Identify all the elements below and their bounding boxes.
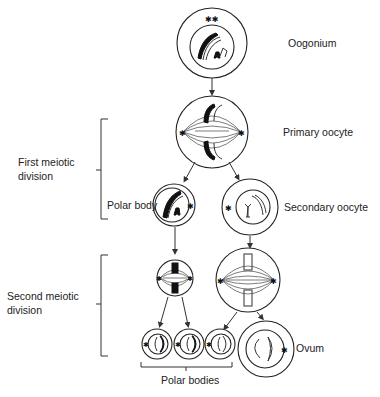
centriole-icon: ✱ [206,341,212,349]
label-second-division-line2: division [7,304,42,316]
centriole-icon: ✱ [238,129,245,138]
label-second-division-line1: Second meiotic [7,290,79,302]
centriole-icon: ✱✱ [205,15,219,24]
polar-body-division-cell: ✱ ✱ [156,260,193,296]
label-oogonium: Oogonium [288,37,337,49]
centriole-icon: ✱ [187,202,194,211]
label-secondary-oocyte: Secondary oocyte [284,201,368,213]
polar-bodies-bracket [141,362,232,371]
centriole-icon: ✱ [217,277,224,286]
oogonium-cell: ✱✱ [177,8,247,78]
polar-body-cell: ✱ [153,184,195,226]
label-ovum: Ovum [296,342,324,354]
label-primary-oocyte: Primary oocyte [283,126,353,138]
oogenesis-diagram: ✱✱ ✱ ✱ ✱ ✱ [0,0,380,397]
centriole-icon: ✱ [281,346,288,355]
centriole-icon: ✱ [270,277,277,286]
primary-oocyte-cell: ✱ ✱ [176,96,248,168]
ovum-cell: ✱ [238,321,294,377]
secondary-oocyte-cell: ✱ [222,179,278,235]
centriole-icon: ✱ [156,275,162,283]
polar-body-small-2: ✱ [174,329,204,359]
polar-body-small-1: ✱ [142,329,172,359]
centriole-icon: ✱ [179,129,186,138]
polar-body-small-3: ✱ [205,329,235,359]
label-first-division-line2: division [18,170,53,182]
label-polar-bodies: Polar bodies [161,374,219,386]
label-polar-body: Polar body [107,199,158,211]
centriole-icon: ✱ [225,204,232,213]
centriole-icon: ✱ [187,275,193,283]
centriole-icon: ✱ [143,341,149,349]
secondary-oocyte-division-cell: ✱ ✱ [216,248,280,312]
second-division-bracket [96,255,108,356]
centriole-icon: ✱ [175,341,181,349]
label-first-division-line1: First meiotic [18,156,75,168]
